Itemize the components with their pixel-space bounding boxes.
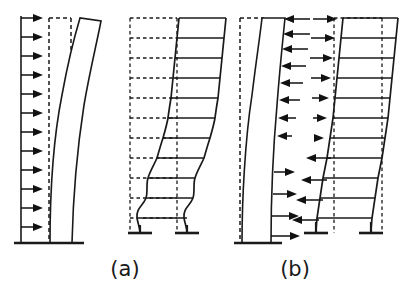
- panel-2-moment-frame: [128, 18, 226, 233]
- caption-a: (a): [110, 257, 139, 281]
- load-arrow: [21, 223, 43, 231]
- load-arrow: [21, 14, 43, 22]
- load-arrow: [21, 147, 43, 155]
- interaction-arrow-left: [277, 132, 292, 140]
- panel-3-lower-arrows: [271, 168, 300, 240]
- load-arrow: [21, 109, 43, 117]
- interaction-arrow-left: [281, 62, 306, 70]
- panel-4-moment-frame: [292, 15, 398, 233]
- interaction-arrow-left: [284, 15, 310, 23]
- panel-4-right-column: [371, 18, 398, 230]
- load-arrow: [21, 90, 43, 98]
- load-arrow: [21, 204, 43, 212]
- interaction-arrow-right: [271, 232, 300, 240]
- interaction-arrow-right: [311, 34, 335, 42]
- interaction-arrow-right: [314, 134, 324, 142]
- figure-root: (a) (b): [0, 0, 415, 292]
- interaction-arrow-right: [274, 168, 295, 176]
- panel-1-shear-wall: [14, 14, 101, 243]
- panel-2-left-column: [137, 18, 179, 233]
- interaction-arrow-right: [313, 114, 327, 122]
- interaction-arrow-right: [310, 54, 333, 62]
- interaction-arrow-right: [272, 212, 299, 220]
- panel-4-floor-beams: [317, 18, 398, 218]
- interaction-arrow-left: [283, 30, 310, 38]
- interaction-arrow-left: [278, 114, 296, 122]
- panel-2-right-column: [184, 18, 226, 233]
- interaction-arrow-right: [311, 74, 331, 82]
- interaction-arrow-left: [280, 79, 303, 87]
- load-arrow: [21, 166, 43, 174]
- load-arrow: [21, 52, 43, 60]
- structural-deformation-diagram: (a) (b): [0, 0, 415, 292]
- interaction-arrow-left: [282, 45, 308, 53]
- interaction-arrow-right: [313, 15, 337, 23]
- load-arrow: [21, 185, 43, 193]
- panel-2-undeformed-outline: [130, 18, 177, 233]
- load-arrow: [21, 33, 43, 41]
- load-arrow: [21, 71, 43, 79]
- panel-4-base-supports: [304, 222, 383, 233]
- interaction-arrow-right: [273, 190, 297, 198]
- panel-1-deformed-wall: [50, 18, 101, 243]
- load-arrow: [21, 128, 43, 136]
- panel-3-deformed-wall: [242, 18, 285, 243]
- interaction-arrow-right: [312, 94, 329, 102]
- caption-b: (b): [280, 257, 310, 281]
- interaction-arrow-left: [279, 96, 300, 104]
- panel-3-shear-wall: [234, 15, 310, 243]
- panel-1-load-arrows: [21, 14, 43, 231]
